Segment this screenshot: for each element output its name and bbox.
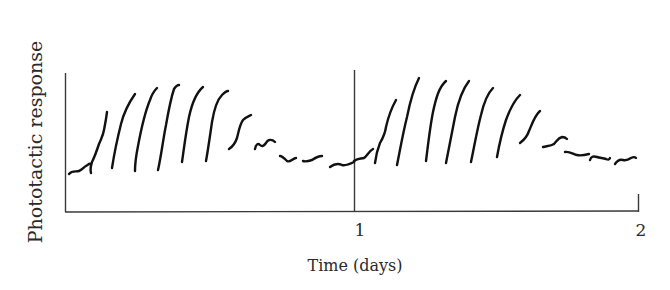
day-2-traces — [354, 78, 636, 165]
phototactic-response-chart: 1 2 Time (days) Phototactic response — [0, 0, 670, 290]
trace-stroke — [69, 164, 91, 174]
trace-stroke — [426, 81, 446, 161]
trace-stroke — [520, 111, 540, 143]
day-1-traces — [69, 85, 354, 174]
chart-canvas: 1 2 Time (days) Phototactic response — [0, 0, 670, 290]
trace-stroke — [543, 137, 567, 147]
trace-stroke — [112, 94, 135, 168]
trace-stroke — [397, 78, 419, 165]
x-tick-2: 2 — [636, 220, 647, 240]
trace-stroke — [471, 88, 493, 162]
x-tick-1: 1 — [355, 220, 366, 240]
trace-stroke — [280, 156, 296, 161]
trace-stroke — [135, 88, 157, 171]
trace-stroke — [303, 156, 322, 161]
trace-stroke — [158, 85, 179, 170]
x-axis-label: Time (days) — [307, 256, 402, 275]
trace-stroke — [182, 87, 203, 162]
x-axis — [65, 211, 639, 212]
trace-stroke — [206, 91, 228, 161]
trace-stroke — [354, 149, 373, 161]
trace-stroke — [255, 140, 275, 149]
y-axis-label: Phototactic response — [24, 41, 46, 243]
trace-stroke — [91, 112, 107, 173]
axes — [65, 70, 639, 212]
trace-stroke — [446, 81, 469, 163]
trace-stroke — [229, 115, 251, 149]
trace-stroke — [565, 152, 589, 156]
trace-stroke — [330, 162, 354, 167]
trace-stroke — [497, 95, 520, 157]
trace-stroke — [590, 156, 610, 160]
trace-stroke — [615, 157, 636, 164]
trace-stroke — [375, 100, 396, 163]
